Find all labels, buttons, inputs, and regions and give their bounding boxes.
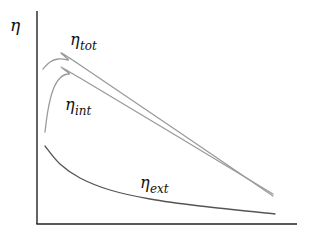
efficiency-chart: η η tot η int η ext <box>0 0 314 236</box>
svg-text:η: η <box>140 173 150 192</box>
series-line-int <box>45 67 273 194</box>
series-line-ext <box>45 146 275 214</box>
svg-text:η: η <box>70 30 80 49</box>
y-axis-label: η <box>10 15 21 35</box>
svg-text:η: η <box>65 95 75 114</box>
svg-text:int: int <box>75 104 92 118</box>
series-label-ext: η ext <box>140 173 169 196</box>
svg-text:tot: tot <box>80 39 97 53</box>
series-label-tot: η tot <box>70 30 97 53</box>
svg-text:ext: ext <box>150 182 169 196</box>
series-label-int: η int <box>65 95 92 118</box>
